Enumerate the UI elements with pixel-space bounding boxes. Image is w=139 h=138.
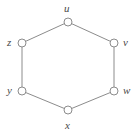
graph-edge-z-u [22, 22, 68, 43]
vertex-label-v: v [123, 37, 128, 48]
vertex-layer [18, 18, 118, 114]
graph-edge-w-x [68, 91, 114, 110]
graph-edge-x-y [22, 91, 68, 110]
hexagon-cycle-graph-figure: uvwxyz [0, 0, 139, 138]
vertex-label-y: y [7, 85, 12, 96]
vertex-label-z: z [7, 37, 11, 48]
graph-vertex-w [110, 87, 118, 95]
graph-edge-u-v [68, 22, 114, 43]
graph-vertex-v [110, 39, 118, 47]
graph-vertex-y [18, 87, 26, 95]
graph-vertex-x [64, 106, 72, 114]
graph-vertex-z [18, 39, 26, 47]
vertex-label-w: w [123, 85, 130, 96]
vertex-label-x: x [65, 120, 70, 131]
vertex-label-u: u [64, 3, 70, 14]
edge-layer [22, 22, 114, 110]
graph-vertex-u [64, 18, 72, 26]
graph-canvas [0, 0, 139, 138]
